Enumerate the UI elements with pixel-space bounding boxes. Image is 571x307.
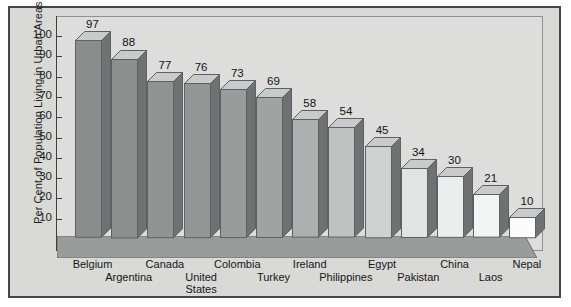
y-tick-label: 30 <box>26 170 52 182</box>
bar-value-label: 10 <box>507 195 547 207</box>
bar-argentina <box>111 52 146 240</box>
y-tick-label-wrap: 30 <box>22 178 52 179</box>
bar-belgium <box>75 33 110 239</box>
bar-shape <box>147 72 184 239</box>
y-tick-label-wrap: 80 <box>22 77 52 78</box>
bar-china <box>437 169 472 239</box>
x-label-line: States <box>156 283 246 295</box>
bar-philippines <box>328 120 363 239</box>
bar-shape <box>292 110 329 239</box>
y-tick-label: 70 <box>26 89 52 101</box>
bars-container: 97887776736958544534302110 <box>57 17 537 239</box>
y-tick-label: 60 <box>26 109 52 121</box>
x-label-nepal: Nepal <box>482 258 571 270</box>
bar-shape <box>111 50 148 240</box>
y-tick-label-wrap: 100 <box>22 36 52 37</box>
bar-pakistan <box>401 161 436 239</box>
bar-egypt <box>365 139 400 239</box>
bar-value-label: 69 <box>254 75 294 87</box>
bar-value-label: 21 <box>471 172 511 184</box>
y-tick-label-wrap: 40 <box>22 158 52 159</box>
y-tick-label: 90 <box>26 48 52 60</box>
x-label-laos: Laos <box>446 271 536 283</box>
bar-ireland <box>292 112 327 239</box>
x-label-line: Nepal <box>482 258 571 270</box>
bar-shape <box>184 74 221 239</box>
bar-nepal <box>509 210 544 239</box>
floor-shape <box>57 236 537 258</box>
bar-shape <box>437 167 474 239</box>
y-tick-label: 100 <box>26 28 52 40</box>
bar-shape <box>328 118 365 239</box>
bar-value-label: 97 <box>73 18 113 30</box>
bar-value-label: 30 <box>435 154 475 166</box>
bar-shape <box>509 208 546 239</box>
bar-laos <box>473 187 508 239</box>
bar-shape <box>220 80 257 239</box>
bar-value-label: 45 <box>362 124 402 136</box>
y-tick-label-wrap: 50 <box>22 138 52 139</box>
y-tick-label-wrap: 20 <box>22 198 52 199</box>
bar-canada <box>147 74 182 239</box>
y-tick-label-wrap: 60 <box>22 117 52 118</box>
bar-shape <box>401 159 438 239</box>
y-tick-label-wrap: 10 <box>22 219 52 220</box>
bar-value-label: 76 <box>181 61 221 73</box>
bar-value-label: 88 <box>109 36 149 48</box>
bar-chart-figure: Per Cent of Population Living in Urban A… <box>0 0 571 307</box>
bar-value-label: 77 <box>145 59 185 71</box>
y-tick-label: 80 <box>26 69 52 81</box>
bar-shape <box>75 31 112 239</box>
bar-shape <box>365 137 402 239</box>
y-tick-label-wrap: 70 <box>22 97 52 98</box>
bar-colombia <box>220 82 255 239</box>
y-tick-label: 50 <box>26 130 52 142</box>
bar-turkey <box>256 90 291 239</box>
bar-shape <box>473 185 510 239</box>
bar-value-label: 58 <box>290 97 330 109</box>
bar-value-label: 34 <box>398 146 438 158</box>
bar-united-states <box>184 76 219 239</box>
x-label-line: Laos <box>446 271 536 283</box>
chart-floor-slab <box>57 236 537 258</box>
bar-shape <box>256 88 293 239</box>
bar-value-label: 54 <box>326 105 366 117</box>
y-tick-label-wrap: 90 <box>22 56 52 57</box>
y-tick-label: 20 <box>26 190 52 202</box>
y-tick-label: 40 <box>26 150 52 162</box>
bar-value-label: 73 <box>217 67 257 79</box>
y-tick-label: 10 <box>26 211 52 223</box>
